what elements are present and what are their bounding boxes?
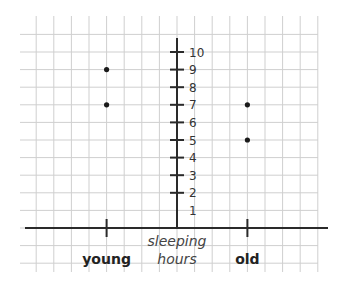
y-tick-label: 3	[189, 169, 197, 183]
data-point-old	[245, 102, 250, 107]
y-tick-label: 2	[189, 186, 197, 200]
y-ticks: 12345678910	[170, 46, 204, 218]
y-axis-title-line2: hours	[157, 251, 196, 267]
y-tick-label: 10	[189, 46, 204, 60]
y-tick-label: 9	[189, 63, 197, 77]
data-point-old	[245, 137, 250, 142]
y-tick-label: 8	[189, 81, 197, 95]
y-tick-label: 7	[189, 98, 197, 112]
y-tick-label: 5	[189, 134, 197, 148]
y-tick-label: 4	[189, 151, 197, 165]
category-label-old: old	[235, 251, 259, 267]
chart-canvas: 12345678910 youngold sleeping hours	[0, 0, 350, 289]
y-tick-label: 1	[189, 204, 197, 218]
data-point-young	[104, 67, 109, 72]
y-axis-title-line1: sleeping	[148, 233, 207, 249]
y-tick-label: 6	[189, 116, 197, 130]
data-point-young	[104, 102, 109, 107]
category-label-young: young	[82, 251, 131, 267]
